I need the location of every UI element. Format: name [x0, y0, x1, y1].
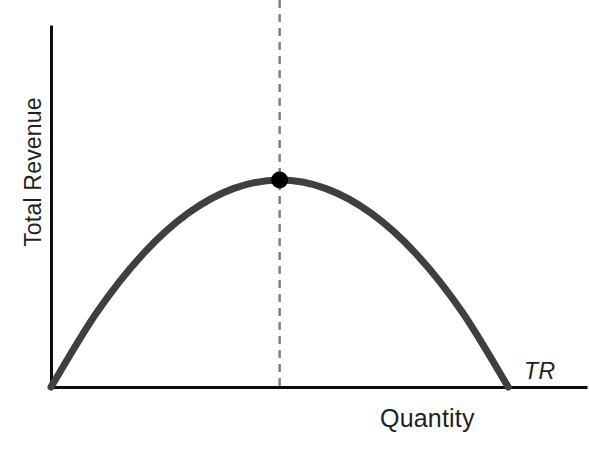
total-revenue-chart-canvas — [0, 0, 589, 449]
x-axis-label: Quantity — [380, 401, 475, 435]
chart-figure: Total Revenue Quantity TR — [0, 0, 589, 449]
y-axis-label: Total Revenue — [18, 92, 48, 252]
revenue-max-point-marker — [271, 172, 288, 189]
series-label-tr: TR — [524, 357, 556, 385]
